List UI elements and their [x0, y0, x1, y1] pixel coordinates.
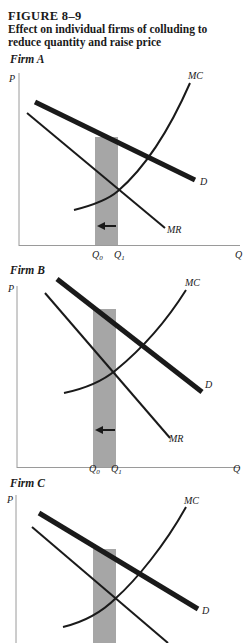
- mc-label: MC: [183, 495, 199, 506]
- d-label: D: [201, 605, 210, 616]
- firm-c-chart: P MC D: [0, 0, 245, 643]
- p-axis-label: P: [6, 494, 13, 505]
